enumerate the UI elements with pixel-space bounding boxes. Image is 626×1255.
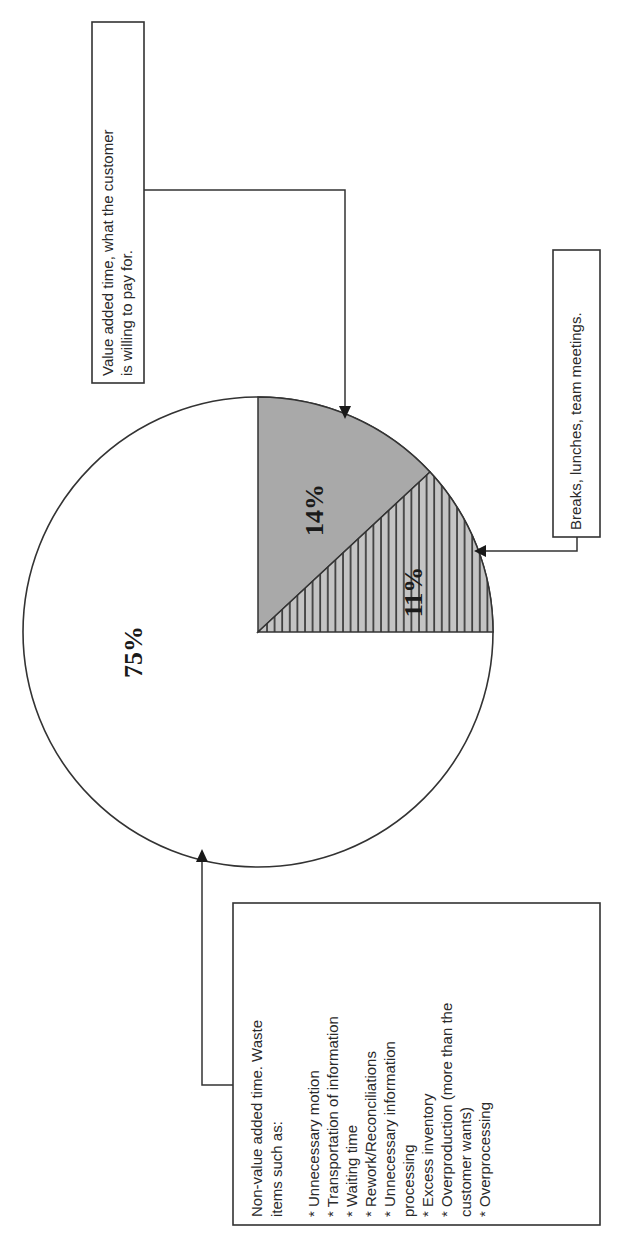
pie [23, 397, 493, 867]
callout-waste-item-7: * Excess inventory [419, 1093, 436, 1217]
callout-waste-item-6: processing [400, 1144, 417, 1217]
connector-value-added [144, 190, 345, 408]
callout-waste: Non-value added time. Waste items such a… [196, 849, 600, 1225]
callout-waste-item-9: customer wants) [457, 1107, 474, 1217]
callout-waste-item-8: * Overproduction (more than the [438, 1003, 455, 1217]
callout-breaks-line-1: Breaks, lunches, team meetings. [567, 312, 584, 530]
callout-waste-item-2: * Transportation of information [324, 1016, 341, 1217]
callout-waste-line-1: Non-value added time. Waste [248, 1020, 265, 1217]
callout-breaks: Breaks, lunches, team meetings. [474, 250, 600, 557]
callout-value-added: Value added time, what the customer is w… [92, 22, 351, 419]
callout-waste-line-2: items such as: [268, 1121, 285, 1217]
callout-waste-item-4: * Rework/Reconciliations [362, 1051, 379, 1217]
label-75-percent: 75% [119, 626, 148, 678]
callout-waste-item-10: * Overprocessing [476, 1102, 493, 1217]
callout-value-added-line-1: Value added time, what the customer [99, 129, 116, 376]
connector-waste [202, 860, 233, 1085]
pie-chart-figure: 75% 14% 11% Value added time, what the c… [0, 0, 626, 1255]
connector-breaks [484, 537, 577, 551]
callout-value-added-line-2: is willing to pay for. [118, 250, 135, 376]
callout-waste-item-3: * Waiting time [343, 1125, 360, 1217]
label-11-percent: 11% [399, 567, 428, 618]
callout-waste-item-5: * Unnecessary information [381, 1041, 398, 1217]
label-14-percent: 14% [300, 484, 329, 536]
callout-waste-item-1: * Unnecessary motion [305, 1070, 322, 1217]
